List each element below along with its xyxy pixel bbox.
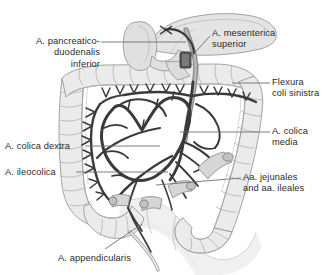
label-colica-media: A. colicamedia <box>272 126 326 149</box>
label-jejunales-ileales: Aa. jejunalesand aa. ileales <box>243 172 326 195</box>
label-colica-dextra: A. colica dextra <box>5 141 85 152</box>
label-flexura-coli-sinistra: Flexuracoli sinistra <box>272 77 326 100</box>
label-ileocolica: A. ileocolica <box>5 167 75 178</box>
vasa-recta <box>82 84 250 200</box>
label-pancreaticoduodenalis-inferior: A. pancreatico-duodenalisinferior <box>4 36 100 70</box>
anatomy-figure: A. pancreatico-duodenalisinferior A. mes… <box>0 0 326 275</box>
label-appendicularis: A. appendicularis <box>58 253 150 264</box>
label-mesenterica-superior: A. mesentericasuperior <box>212 28 322 51</box>
